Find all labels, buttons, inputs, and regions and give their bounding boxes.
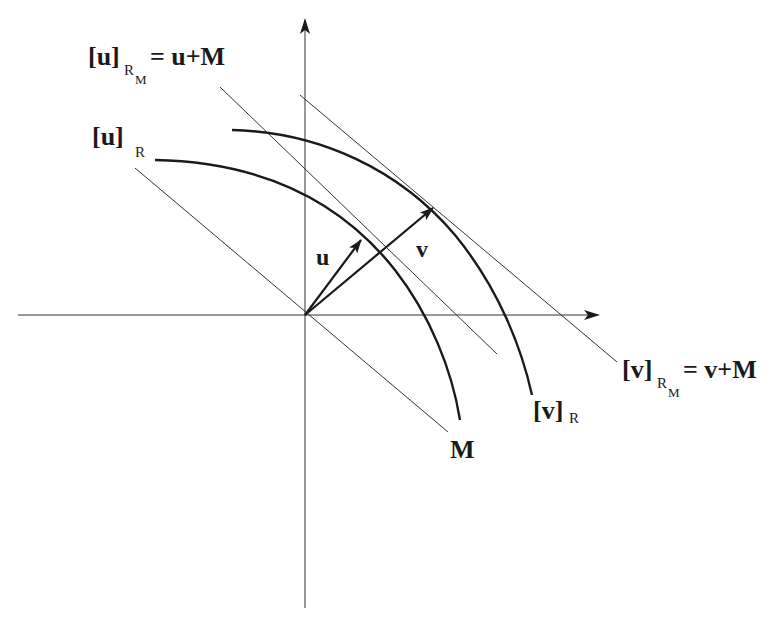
svg-text:M: M	[668, 385, 680, 400]
label-vector-u: u	[316, 244, 329, 270]
arc-u-r	[155, 160, 460, 420]
label-u-rm: [u] R M = u+M	[88, 42, 225, 87]
svg-text:= u+M: = u+M	[150, 42, 225, 71]
quotient-space-diagram: [u] R M = u+M [u] R [v] R M = v+M [v] R …	[0, 0, 781, 632]
label-u-r: [u] R	[92, 122, 145, 160]
label-line-m: M	[450, 435, 475, 464]
svg-text:[v]: [v]	[622, 355, 652, 384]
arc-v-r	[232, 130, 532, 395]
label-v-rm: [v] R M = v+M	[622, 355, 757, 400]
svg-text:R: R	[657, 375, 667, 391]
svg-text:R: R	[135, 144, 145, 160]
svg-text:[u]: [u]	[92, 122, 124, 151]
label-vector-v: v	[416, 236, 428, 262]
svg-text:= v+M: = v+M	[683, 355, 757, 384]
svg-text:[u]: [u]	[88, 42, 120, 71]
line-m	[135, 168, 448, 432]
svg-text:[v]: [v]	[533, 396, 563, 425]
vector-u	[305, 240, 361, 315]
svg-text:R: R	[124, 62, 134, 78]
line-u-plus-m	[220, 87, 497, 354]
label-v-r: [v] R	[533, 396, 579, 426]
line-v-plus-m	[300, 95, 617, 362]
svg-text:R: R	[569, 410, 579, 426]
svg-text:M: M	[135, 72, 147, 87]
